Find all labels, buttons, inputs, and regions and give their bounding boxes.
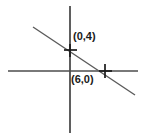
point-label-y-intercept: (0,4) (73, 31, 96, 42)
point-label-x-intercept: (6,0) (71, 74, 94, 85)
point-marker-x-intercept (99, 64, 112, 78)
graph-canvas (0, 0, 145, 138)
coordinate-plane-figure: (0,4) (6,0) (0, 0, 145, 138)
